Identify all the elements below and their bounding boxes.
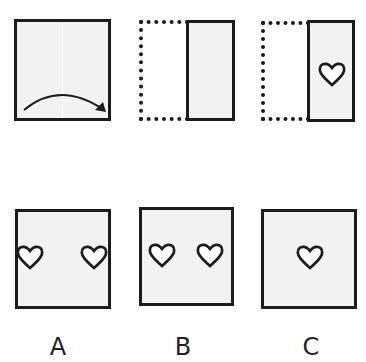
heart-icon — [148, 241, 176, 269]
step3-folded-away-half — [261, 21, 310, 121]
step2-folded-away-half — [139, 20, 189, 121]
option-c-label: C — [291, 333, 331, 361]
heart-icon — [80, 243, 108, 271]
heart-icon — [318, 60, 346, 88]
option-b-label: B — [163, 333, 203, 361]
option-a-label: A — [38, 333, 78, 361]
heart-icon — [296, 243, 324, 271]
heart-icon — [196, 241, 224, 269]
step2-paper — [186, 20, 235, 121]
heart-icon — [16, 243, 44, 271]
